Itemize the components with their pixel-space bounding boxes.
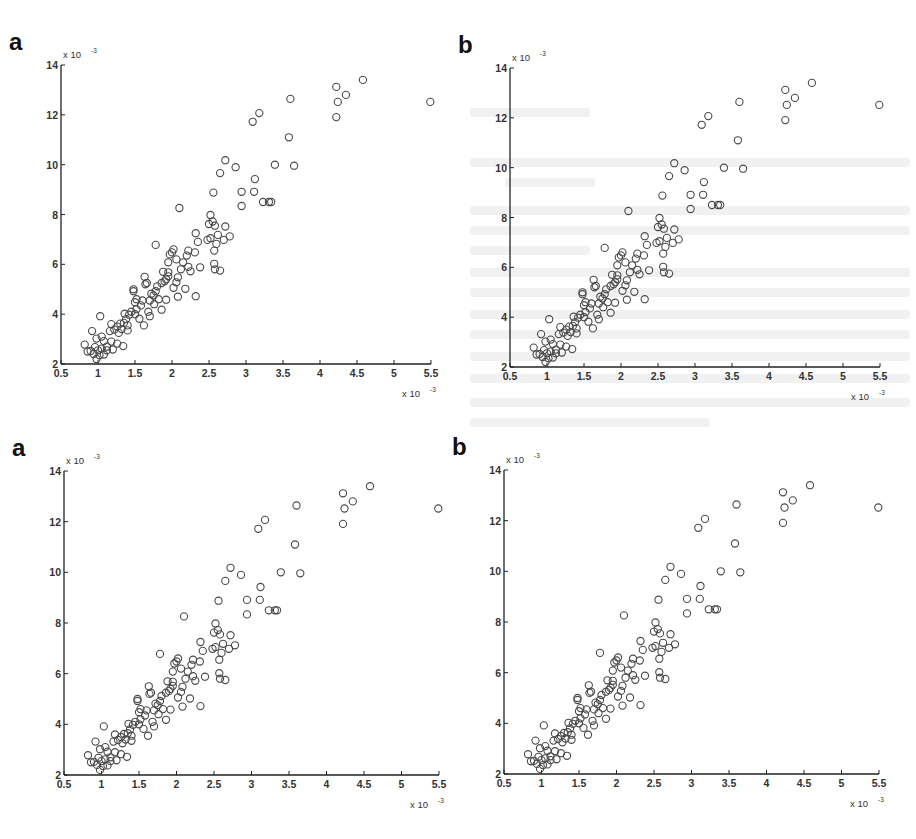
- x-tick-label: 5: [839, 777, 845, 789]
- x-multiplier-label: x 10: [851, 391, 869, 402]
- data-point: [287, 95, 294, 102]
- x-tick-label: 5.5: [872, 777, 887, 789]
- data-point: [590, 276, 597, 283]
- data-point: [641, 233, 648, 240]
- data-point: [740, 165, 747, 172]
- data-point: [227, 564, 234, 571]
- data-point: [333, 114, 340, 121]
- data-point: [614, 693, 621, 700]
- data-point: [199, 647, 206, 654]
- data-point: [595, 300, 602, 307]
- data-point: [604, 677, 611, 684]
- data-point: [590, 706, 597, 713]
- data-point: [683, 595, 690, 602]
- x-multiplier-label: x 10: [402, 388, 420, 399]
- data-point: [285, 134, 292, 141]
- panel-label: a: [9, 28, 23, 55]
- y-multiplier-label: x 10: [63, 49, 81, 60]
- svg-text:-3: -3: [91, 47, 97, 54]
- data-point: [164, 678, 171, 685]
- data-point: [333, 83, 340, 90]
- data-point: [188, 661, 195, 668]
- data-point: [658, 648, 665, 655]
- scatter-panel-bottom-right: b0.511.522.533.544.555.52468101214x 10-3…: [452, 433, 886, 809]
- data-point: [257, 583, 264, 590]
- data-point: [614, 262, 621, 269]
- data-point: [111, 731, 118, 738]
- data-point: [619, 287, 626, 294]
- data-point: [530, 344, 537, 351]
- data-point: [669, 239, 676, 246]
- data-point: [737, 569, 744, 576]
- y-tick-label: 2: [495, 768, 501, 780]
- data-point: [789, 497, 796, 504]
- data-point: [192, 230, 199, 237]
- y-tick-label: 4: [495, 717, 501, 729]
- data-point: [607, 705, 614, 712]
- x-tick-label: 4: [766, 370, 772, 382]
- data-point: [160, 268, 167, 275]
- x-tick-label: 4: [324, 778, 330, 790]
- data-point: [602, 715, 609, 722]
- data-point: [145, 683, 152, 690]
- data-point: [623, 277, 630, 284]
- data-point: [782, 117, 789, 124]
- data-point: [156, 650, 163, 657]
- data-point: [150, 707, 157, 714]
- y-multiplier-label: x 10: [512, 52, 530, 63]
- data-point: [180, 613, 187, 620]
- data-point: [237, 571, 244, 578]
- y-tick-label: 2: [55, 769, 61, 781]
- data-point: [197, 703, 204, 710]
- data-point: [349, 498, 356, 505]
- x-tick-label: 1.5: [572, 777, 587, 789]
- data-point: [427, 98, 434, 105]
- data-point: [659, 639, 666, 646]
- y-tick-label: 2: [52, 358, 58, 370]
- data-point: [696, 595, 703, 602]
- x-tick-label: 3: [692, 370, 698, 382]
- x-tick-label: 4.5: [797, 777, 812, 789]
- data-point: [625, 207, 632, 214]
- data-point: [251, 188, 258, 195]
- data-point: [108, 321, 115, 328]
- data-point: [215, 597, 222, 604]
- data-point: [631, 288, 638, 295]
- data-point: [106, 328, 113, 335]
- data-point: [197, 638, 204, 645]
- data-point: [243, 611, 250, 618]
- data-point: [217, 267, 224, 274]
- data-point: [179, 703, 186, 710]
- data-point: [540, 722, 547, 729]
- data-point: [214, 231, 221, 238]
- data-point: [187, 268, 194, 275]
- data-point: [656, 655, 663, 662]
- data-point: [334, 98, 341, 105]
- y-tick-label: 14: [495, 62, 507, 74]
- data-point: [622, 674, 629, 681]
- data-point: [291, 541, 298, 548]
- data-point: [225, 645, 232, 652]
- x-tick-label: 2.5: [647, 777, 662, 789]
- data-point: [731, 540, 738, 547]
- x-tick-label: 5: [391, 367, 397, 379]
- data-point: [646, 267, 653, 274]
- y-tick-label: 14: [46, 59, 58, 71]
- data-point: [544, 747, 551, 754]
- data-point: [182, 285, 189, 292]
- data-point: [189, 656, 196, 663]
- data-point: [136, 315, 143, 322]
- y-tick-label: 8: [501, 212, 507, 224]
- x-tick-label: 1.5: [128, 367, 143, 379]
- y-tick-label: 14: [489, 464, 501, 476]
- data-point: [297, 570, 304, 577]
- svg-text:-3: -3: [430, 386, 436, 393]
- y-tick-label: 4: [55, 718, 61, 730]
- data-points: [81, 76, 434, 362]
- data-point: [550, 737, 557, 744]
- data-point: [594, 701, 601, 708]
- data-point: [140, 725, 147, 732]
- data-point: [271, 161, 278, 168]
- x-tick-label: 3.5: [725, 370, 740, 382]
- data-point: [662, 243, 669, 250]
